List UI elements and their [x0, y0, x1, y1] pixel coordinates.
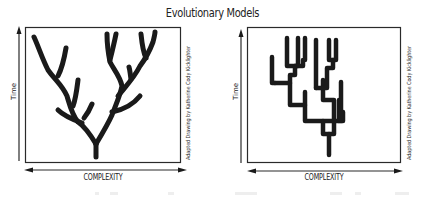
right-panel-graphic: [0, 0, 425, 197]
right-credit-label: Adapted Drawing by Katherine Cody Kickli…: [406, 46, 412, 160]
right-x-axis-label: COMPLEXITY: [300, 173, 348, 182]
cutoff-caption-fragment: [0, 192, 425, 197]
left-x-axis-label: COMPLEXITY: [79, 173, 127, 182]
candelabra-drawing: [272, 38, 343, 155]
left-y-axis-label: Time: [10, 83, 18, 100]
right-y-axis-label: Time: [232, 83, 240, 100]
left-credit-label: Adapted Drawing by Katherine Cody Kickli…: [185, 46, 191, 160]
